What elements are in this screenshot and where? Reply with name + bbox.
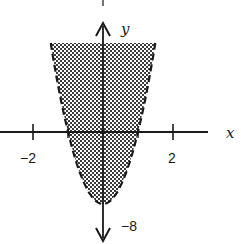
y-axis-label: y — [120, 20, 130, 38]
y-tick-label-neg8: −8 — [121, 218, 137, 234]
x-tick-label-pos2: 2 — [168, 150, 176, 166]
x-axis-label: x — [226, 124, 235, 142]
x-tick-label-neg2: −2 — [20, 150, 36, 166]
inequality-graph: y x −2 2 −8 — [0, 0, 241, 244]
origin-point — [101, 130, 105, 134]
